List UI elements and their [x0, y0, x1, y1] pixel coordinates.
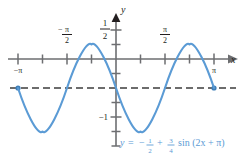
x-axis-label: x: [230, 54, 236, 65]
denominator-two: 2: [163, 36, 167, 45]
denominator-two: 2: [103, 31, 108, 41]
y-tick-label-one-half: 1 2: [100, 18, 110, 41]
x-tick-label-neg-pi: −π: [14, 66, 23, 75]
equation-minus: −: [139, 137, 145, 148]
equation-label: y = − 1 2 + 3 4 sin (2x + π): [119, 137, 225, 155]
equation-num2: 3: [169, 137, 173, 145]
equation-den1: 2: [148, 147, 152, 155]
denominator-two: 2: [65, 36, 69, 45]
coordinate-plane: x y −π − π 2 π 2 π 1 2 −1 y = − 1: [0, 0, 241, 157]
equation-sin-term: sin (2x + π): [178, 137, 225, 149]
equation-plus: +: [157, 137, 163, 148]
neg-sign: −: [58, 25, 63, 34]
x-tick-label-neg-pi-over-2: − π 2: [58, 25, 72, 45]
numerator-pi: π: [65, 25, 69, 34]
equation-lhs: y: [119, 137, 125, 148]
y-axis-label: y: [120, 4, 126, 15]
equation-equals: =: [128, 137, 134, 148]
x-tick-label-pi: π: [212, 66, 216, 75]
equation-den2: 4: [169, 147, 173, 155]
equation-num1: 1: [148, 137, 152, 145]
numerator-pi: π: [163, 25, 167, 34]
graph-figure: x y −π − π 2 π 2 π 1 2 −1 y = − 1: [0, 0, 241, 157]
x-tick-label-pi-over-2: π 2: [160, 25, 170, 45]
y-axis-arrowhead: [112, 13, 121, 22]
y-tick-label-neg-one: −1: [98, 112, 108, 122]
numerator-one: 1: [103, 18, 108, 28]
